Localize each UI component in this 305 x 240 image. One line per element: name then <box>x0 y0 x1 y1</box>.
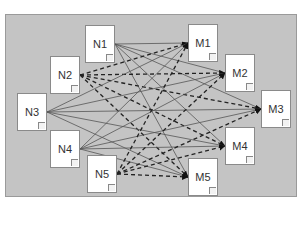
page-fold-icon <box>71 159 78 166</box>
node-n2[interactable]: N2 <box>50 56 80 94</box>
node-label: N1 <box>93 38 107 50</box>
node-label: M5 <box>195 171 210 183</box>
node-m1[interactable]: M1 <box>188 24 218 62</box>
edge-n2-m2 <box>80 73 225 75</box>
node-label: N5 <box>95 168 109 180</box>
page-fold-icon <box>209 187 216 194</box>
node-label: N3 <box>25 106 39 118</box>
node-label: M3 <box>268 103 283 115</box>
node-m3[interactable]: M3 <box>261 90 291 128</box>
page-fold-icon <box>282 119 289 126</box>
page-fold-icon <box>246 83 253 90</box>
edge-n5-m1 <box>117 43 188 174</box>
page-fold-icon <box>71 85 78 92</box>
edge-n4-m4 <box>80 146 225 149</box>
node-label: M2 <box>232 67 247 79</box>
node-label: N4 <box>58 143 72 155</box>
page-fold-icon <box>246 156 253 163</box>
node-n4[interactable]: N4 <box>50 130 80 168</box>
node-label: N2 <box>58 69 72 81</box>
page-fold-icon <box>106 54 113 61</box>
node-m4[interactable]: M4 <box>225 127 255 165</box>
node-n3[interactable]: N3 <box>17 93 47 131</box>
page-fold-icon <box>209 53 216 60</box>
node-m5[interactable]: M5 <box>188 158 218 196</box>
page-fold-icon <box>38 122 45 129</box>
node-label: M4 <box>232 140 247 152</box>
node-label: M1 <box>195 37 210 49</box>
page-fold-icon <box>108 184 115 191</box>
node-n5[interactable]: N5 <box>87 155 117 193</box>
edge-n1-m1 <box>115 43 188 44</box>
node-n1[interactable]: N1 <box>85 25 115 63</box>
node-m2[interactable]: M2 <box>225 54 255 92</box>
